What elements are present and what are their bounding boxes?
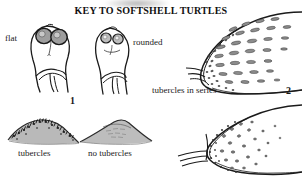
turtle-key-illustration	[0, 0, 302, 190]
label-tubercles: tubercles	[18, 149, 50, 158]
ridge-tubercles-drawing	[8, 119, 79, 145]
head-flat-drawing	[31, 24, 69, 92]
couplet-number-2: 2	[286, 86, 291, 96]
page-title: KEY TO SOFTSHELL TURTLES	[0, 6, 302, 16]
ridge-no-tubercles-drawing	[80, 120, 152, 145]
label-tubercles-in-series: tubercles in series	[152, 86, 216, 95]
head-rounded-drawing	[96, 27, 129, 94]
couplet-number-1: 1	[70, 96, 75, 106]
label-no-tubercles: no tubercles	[88, 149, 132, 158]
carapace-scattered-tubercles-drawing	[178, 105, 302, 174]
label-flat: flat	[5, 34, 17, 43]
label-rounded: rounded	[133, 38, 163, 47]
carapace-tubercles-in-series-drawing	[186, 12, 302, 94]
